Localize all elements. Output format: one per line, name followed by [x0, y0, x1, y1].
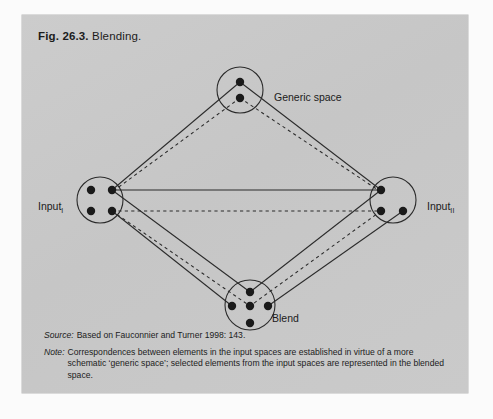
element-dot-input1-bl: [87, 207, 95, 215]
element-dot-generic-top: [236, 78, 244, 86]
input-2-subscript: II: [450, 207, 455, 214]
element-dot-blend-right: [264, 302, 272, 310]
dashed-generic-to-input1: [112, 98, 240, 192]
node-label-generic-space: Generic space: [274, 91, 342, 103]
element-dot-blend-bottom: [246, 319, 254, 327]
element-dot-input2-bl: [377, 207, 385, 215]
element-dot-blend-left: [228, 302, 236, 310]
explanatory-note-row: Note: Correspondences between elements i…: [44, 347, 452, 382]
element-dot-blend-mid: [246, 302, 254, 310]
space-circle-input2: [370, 177, 416, 223]
dashed-generic-to-input2: [240, 98, 381, 192]
blend-text: Blend: [272, 312, 299, 324]
element-dot-blend-top: [246, 288, 254, 296]
note-label: Note:: [44, 347, 68, 359]
edge-input2-to-blend-a: [250, 190, 381, 292]
node-label-blend: Blend: [272, 312, 299, 324]
element-dot-input1-tl: [87, 186, 95, 194]
input-2-text: Input: [427, 200, 450, 212]
element-dot-input1-tr: [108, 186, 116, 194]
edge-generic-to-input1: [112, 82, 240, 190]
edge-input1-to-blend-a: [112, 190, 250, 292]
input-1-text: Input: [38, 200, 61, 212]
edge-input1-to-blend-b: [112, 211, 232, 306]
space-circle-input1: [77, 177, 123, 223]
space-circle-generic: [217, 67, 263, 113]
generic-space-text: Generic space: [274, 91, 342, 103]
input-1-subscript: I: [61, 207, 63, 214]
node-label-input-2: InputII: [427, 200, 455, 212]
figure-notes: Source: Based on Fauconnier and Turner 1…: [44, 330, 452, 386]
node-label-input-1: InputI: [38, 200, 64, 212]
element-dot-input2-br: [399, 207, 407, 215]
source-text: Based on Fauconnier and Turner 1998: 143…: [77, 330, 452, 342]
element-dot-generic-bottom: [236, 94, 244, 102]
dashed-input2-to-blend: [250, 211, 381, 306]
element-dot-input1-br: [108, 207, 116, 215]
figure-panel: Fig. 26.3. Blending.: [22, 15, 468, 393]
element-dot-input2-tl: [377, 186, 385, 194]
figure-page: Fig. 26.3. Blending.: [0, 0, 493, 419]
note-text: Correspondences between elements in the …: [68, 347, 452, 382]
source-note-row: Source: Based on Fauconnier and Turner 1…: [44, 330, 452, 342]
source-label: Source:: [44, 330, 77, 342]
